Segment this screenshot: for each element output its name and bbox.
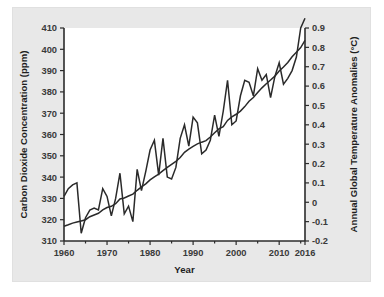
left-tick-label: 410 [41, 23, 57, 33]
right-tick-label: 0.4 [312, 120, 326, 130]
left-tick-label: 370 [41, 109, 57, 119]
left-tick-label: 310 [41, 236, 57, 246]
right-tick-label: 0.9 [312, 23, 325, 33]
left-axis-ticks: 310320330340350360370380390400410 [41, 23, 64, 246]
y2-axis-title: Annual Global Temperature Anomalies (°C) [348, 37, 359, 233]
plot-area-background [64, 28, 305, 241]
x-tick-label: 1990 [183, 248, 204, 258]
left-tick-label: 330 [41, 194, 57, 204]
left-tick-label: 360 [41, 130, 57, 140]
right-tick-label: 0.3 [312, 140, 325, 150]
x-tick-label: 2010 [269, 248, 290, 258]
left-tick-label: 390 [41, 66, 57, 76]
x-tick-label: 2016 [295, 248, 316, 258]
left-tick-label: 380 [41, 87, 57, 97]
right-tick-label: -0.2 [312, 236, 328, 246]
y-axis-title: Carbon Dioxide Concentration (ppm) [18, 51, 29, 219]
left-tick-label: 340 [41, 173, 57, 183]
left-tick-label: 350 [41, 151, 57, 161]
x-axis-ticks: 1960197019801990200020102016 [54, 241, 316, 258]
right-tick-label: 0.6 [312, 81, 325, 91]
left-tick-label: 320 [41, 215, 57, 225]
x-axis-title: Year [174, 264, 195, 275]
figure-panel: 310320330340350360370380390400410-0.2-0.… [13, 8, 370, 281]
right-tick-label: 0.7 [312, 62, 325, 72]
x-tick-label: 1960 [54, 248, 75, 258]
x-tick-label: 1970 [97, 248, 118, 258]
right-tick-label: 0.2 [312, 159, 325, 169]
right-axis-ticks: -0.2-0.100.10.20.30.40.50.60.70.80.9 [305, 23, 328, 246]
right-tick-label: 0.1 [312, 178, 325, 188]
right-tick-label: 0.5 [312, 101, 325, 111]
right-tick-label: -0.1 [312, 217, 328, 227]
x-tick-label: 1980 [140, 248, 161, 258]
climate-dual-axis-chart: 310320330340350360370380390400410-0.2-0.… [13, 8, 370, 281]
x-tick-label: 2000 [226, 248, 247, 258]
chart-canvas: 310320330340350360370380390400410-0.2-0.… [13, 8, 370, 281]
right-tick-label: 0.8 [312, 43, 325, 53]
right-tick-label: 0 [312, 198, 317, 208]
left-tick-label: 400 [41, 45, 57, 55]
